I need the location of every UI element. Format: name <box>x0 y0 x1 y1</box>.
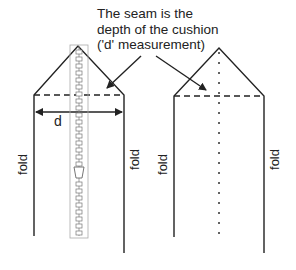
fold-label-left-shape-right: fold <box>127 149 142 170</box>
caption-line-2: depth of the cushion <box>97 22 219 38</box>
callout-arrow-left <box>107 56 141 88</box>
d-label: d <box>54 113 62 129</box>
zipper-pull-icon <box>74 167 84 178</box>
seam-explanation-caption: The seam is the depth of the cushion ('d… <box>97 6 219 53</box>
fold-label-right-shape-right: fold <box>267 149 282 170</box>
fold-label-right-shape-left: fold <box>155 154 170 175</box>
zipper-icon <box>70 45 88 238</box>
fold-label-left-shape-left: fold <box>15 154 30 175</box>
callout-arrow-right <box>156 56 206 90</box>
caption-line-3: ('d' measurement) <box>97 37 219 53</box>
caption-line-1: The seam is the <box>97 6 219 22</box>
